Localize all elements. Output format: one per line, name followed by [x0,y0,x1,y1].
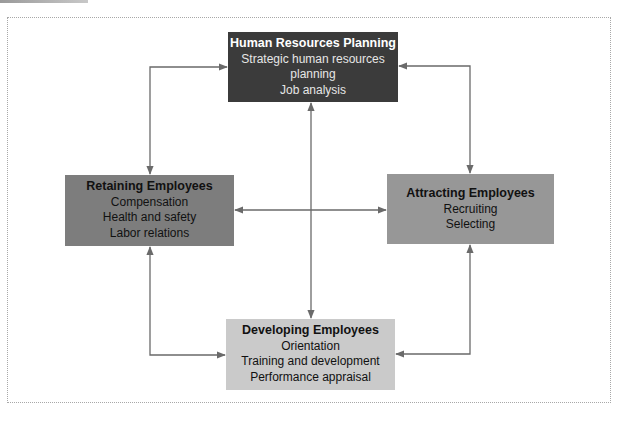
arrow-attracting-hrplanning [399,66,470,173]
box-item: Health and safety [65,210,234,226]
arrow-attracting-developing [396,245,470,354]
arrow-retaining-developing [150,247,225,355]
box-item: Selecting [387,217,554,233]
box-human-resources-planning: Human Resources Planning Strategic human… [228,32,398,102]
arrow-retaining-hrplanning [150,67,227,174]
box-retaining-employees: Retaining Employees Compensation Health … [65,175,234,246]
box-item: Strategic human resources [228,52,398,68]
box-developing-employees: Developing Employees Orientation Trainin… [226,319,395,390]
box-title: Human Resources Planning [228,36,398,52]
box-attracting-employees: Attracting Employees Recruiting Selectin… [387,174,554,244]
box-item: Compensation [65,195,234,211]
box-item: Performance appraisal [226,370,395,386]
box-item: Orientation [226,339,395,355]
box-item: Training and development [226,354,395,370]
box-item: Labor relations [65,226,234,242]
box-item: Job analysis [228,83,398,99]
box-title: Attracting Employees [387,186,554,202]
box-item: Recruiting [387,202,554,218]
box-title: Developing Employees [226,323,395,339]
box-title: Retaining Employees [65,179,234,195]
box-item: planning [228,67,398,83]
